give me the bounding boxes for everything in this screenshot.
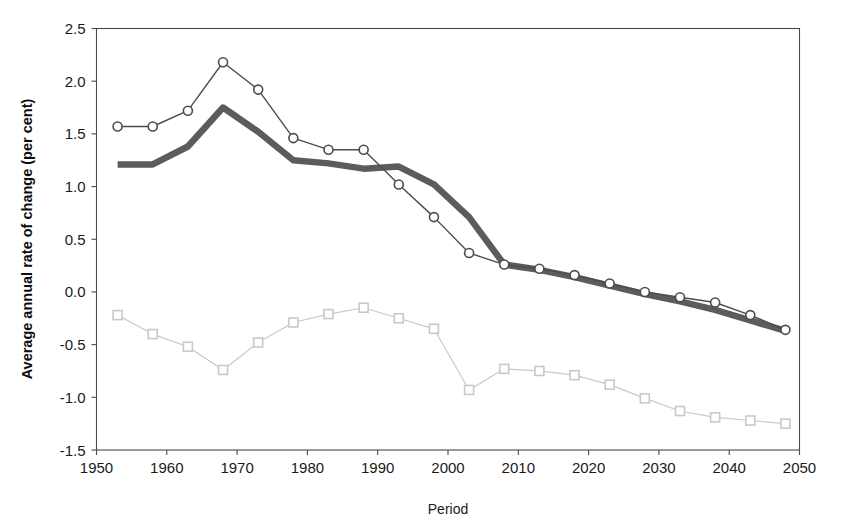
data-point-marker bbox=[394, 180, 403, 189]
x-tick-label: 1960 bbox=[150, 459, 183, 476]
data-point-marker bbox=[183, 106, 192, 115]
y-tick-label: 2.0 bbox=[65, 73, 86, 90]
data-point-marker bbox=[711, 298, 720, 307]
data-point-marker bbox=[394, 314, 403, 323]
data-point-marker bbox=[465, 248, 474, 257]
data-point-marker bbox=[254, 338, 263, 347]
data-point-marker bbox=[113, 311, 122, 320]
data-point-marker bbox=[324, 310, 333, 319]
data-point-marker bbox=[254, 85, 263, 94]
x-tick-label: 1980 bbox=[291, 459, 324, 476]
y-tick-label: 2.5 bbox=[65, 20, 86, 37]
data-point-marker bbox=[711, 413, 720, 422]
data-point-marker bbox=[359, 303, 368, 312]
y-tick-label: -0.5 bbox=[60, 336, 86, 353]
data-point-marker bbox=[570, 371, 579, 380]
x-axis-title: Period bbox=[428, 501, 468, 517]
line-chart: -1.5-1.0-0.50.00.51.01.52.02.5 195019601… bbox=[0, 0, 849, 529]
data-point-marker bbox=[148, 330, 157, 339]
data-point-marker bbox=[465, 385, 474, 394]
y-tick-label: 1.5 bbox=[65, 125, 86, 142]
data-point-marker bbox=[324, 145, 333, 154]
data-point-marker bbox=[535, 264, 544, 273]
y-tick-label: 0.0 bbox=[65, 283, 86, 300]
y-axis-title: Average annual rate of change (per cent) bbox=[19, 98, 35, 379]
chart-container: -1.5-1.0-0.50.00.51.01.52.02.5 195019601… bbox=[0, 0, 849, 529]
data-point-marker bbox=[535, 366, 544, 375]
data-point-marker bbox=[781, 419, 790, 428]
data-point-marker bbox=[570, 271, 579, 280]
data-point-marker bbox=[219, 365, 228, 374]
data-point-marker bbox=[148, 122, 157, 131]
x-tick-label: 1950 bbox=[80, 459, 113, 476]
data-point-marker bbox=[640, 394, 649, 403]
x-tick-label: 1990 bbox=[361, 459, 394, 476]
y-tick-label: 1.0 bbox=[65, 178, 86, 195]
data-point-marker bbox=[500, 364, 509, 373]
y-tick-label: 0.5 bbox=[65, 231, 86, 248]
x-tick-label: 2000 bbox=[431, 459, 464, 476]
data-point-marker bbox=[640, 287, 649, 296]
data-point-marker bbox=[746, 311, 755, 320]
data-point-marker bbox=[113, 122, 122, 131]
data-point-marker bbox=[605, 380, 614, 389]
x-tick-label: 1970 bbox=[220, 459, 253, 476]
data-point-marker bbox=[289, 134, 298, 143]
y-tick-label: -1.0 bbox=[60, 389, 86, 406]
data-point-marker bbox=[605, 279, 614, 288]
x-tick-label: 2020 bbox=[572, 459, 605, 476]
data-point-marker bbox=[359, 145, 368, 154]
data-point-marker bbox=[675, 407, 684, 416]
data-point-marker bbox=[500, 260, 509, 269]
x-tick-label: 2050 bbox=[783, 459, 816, 476]
data-point-marker bbox=[429, 213, 438, 222]
data-point-marker bbox=[289, 318, 298, 327]
y-tick-label: -1.5 bbox=[60, 442, 86, 459]
data-point-marker bbox=[746, 416, 755, 425]
data-point-marker bbox=[781, 325, 790, 334]
x-tick-label: 2040 bbox=[713, 459, 746, 476]
x-tick-label: 2010 bbox=[502, 459, 535, 476]
data-point-marker bbox=[675, 293, 684, 302]
x-tick-label: 2030 bbox=[642, 459, 675, 476]
data-point-marker bbox=[183, 342, 192, 351]
data-point-marker bbox=[219, 58, 228, 67]
data-point-marker bbox=[429, 324, 438, 333]
